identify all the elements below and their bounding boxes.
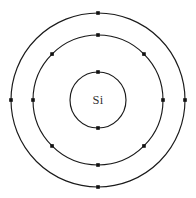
electron-shell2-7 [96, 163, 100, 167]
electron-shell3-3 [9, 98, 13, 102]
electron-shell2-1 [161, 98, 165, 102]
electron-shell2-6 [50, 144, 54, 148]
electron-shell3-4 [96, 185, 100, 189]
nucleus-element-symbol: Si [93, 93, 104, 107]
electron-shell1-2 [96, 126, 100, 130]
diagram-svg-root: Si [0, 0, 196, 198]
electron-shell2-3 [96, 33, 100, 37]
electron-shell3-1 [183, 98, 187, 102]
electron-shell1-1 [96, 70, 100, 74]
electron-shell2-4 [50, 52, 54, 56]
electron-shell2-2 [142, 52, 146, 56]
bohr-model-diagram: Si [0, 0, 196, 198]
electron-shell3-2 [96, 11, 100, 15]
electron-shell2-5 [31, 98, 35, 102]
electron-shell2-8 [142, 144, 146, 148]
